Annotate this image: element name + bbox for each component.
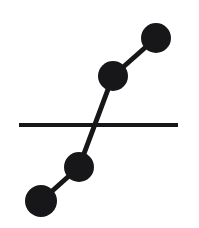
node-lower-middle [64, 152, 94, 182]
node-bottom-left [25, 185, 57, 217]
node-top-right [141, 23, 171, 53]
chain-links-group [41, 38, 156, 201]
diagram-canvas [0, 0, 199, 228]
node-upper-middle [98, 61, 128, 91]
diagram-svg [0, 0, 199, 228]
